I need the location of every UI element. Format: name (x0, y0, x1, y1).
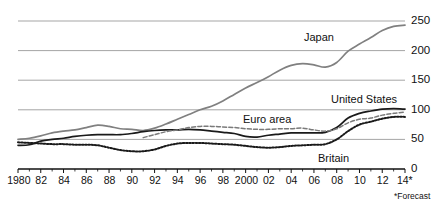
forecast-footnote: *Forecast (394, 191, 430, 201)
chart-container: Japan United States Euro area Britain 05… (0, 0, 445, 207)
y-tick-label: 250 (411, 14, 430, 26)
series-paths-group (18, 25, 405, 151)
gridlines-group (18, 21, 405, 139)
x-tick-label: 86 (81, 174, 93, 186)
x-tick-label: 92 (149, 174, 161, 186)
y-tick-label: 100 (411, 103, 430, 115)
x-tick-label: 10 (354, 174, 366, 186)
series-label-euro-area: Euro area (243, 113, 291, 125)
x-tick-label: 1980 (7, 174, 30, 186)
x-tick-label: 84 (58, 174, 70, 186)
x-tick-label: 82 (35, 174, 47, 186)
series-label-united-states: United States (331, 93, 397, 105)
x-tick-label: 96 (195, 174, 207, 186)
x-tick-label: 02 (263, 174, 275, 186)
y-tick-label: 200 (411, 44, 430, 56)
x-tick-label: 94 (172, 174, 184, 186)
y-tick-label: 0 (411, 162, 417, 174)
x-tick-label: 12 (377, 174, 389, 186)
x-tick-label: 88 (104, 174, 116, 186)
x-tick-label: 2000 (235, 174, 258, 186)
y-tick-label: 50 (411, 132, 424, 144)
x-tick-label: 04 (286, 174, 298, 186)
x-tick-label: 90 (126, 174, 138, 186)
x-tick-label: 08 (331, 174, 343, 186)
series-line-britain (18, 117, 405, 152)
series-label-britain: Britain (318, 152, 349, 164)
series-line-japan (18, 25, 405, 139)
x-tick-label: 98 (217, 174, 229, 186)
series-label-japan: Japan (304, 31, 334, 43)
x-tick-label: 14* (397, 174, 413, 186)
y-tick-label: 150 (411, 73, 430, 85)
x-tick-label: 06 (309, 174, 321, 186)
